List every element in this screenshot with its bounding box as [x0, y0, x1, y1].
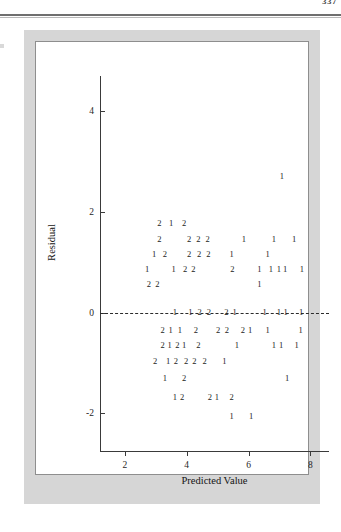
data-point-count: 1: [266, 249, 270, 258]
data-point-count: 1: [169, 219, 173, 228]
data-point-count: 1: [269, 265, 273, 274]
data-point-count: 1: [292, 234, 296, 243]
data-point-count: 1: [277, 265, 281, 274]
data-point-count: 1: [172, 265, 176, 274]
data-point-count: 1: [279, 341, 283, 350]
data-point-count: 2: [160, 341, 164, 350]
x-tick: [249, 451, 250, 456]
data-point-count: 1: [145, 265, 149, 274]
data-point-count: 2: [206, 249, 210, 258]
data-point-count: 1: [280, 171, 284, 180]
data-point-count: 1: [229, 249, 233, 258]
data-point-count: 2: [175, 341, 179, 350]
data-point-count: 2: [208, 393, 212, 402]
data-point-count: 1: [300, 265, 304, 274]
data-point-count: 2: [155, 280, 159, 289]
data-point-count: 1: [215, 393, 219, 402]
data-point-count: 2: [197, 249, 201, 258]
data-point-count: 1: [272, 341, 276, 350]
y-tick-label: 4: [68, 107, 94, 116]
data-point-count: 2: [182, 374, 186, 383]
data-point-count: 2: [157, 219, 161, 228]
data-point-count: 2: [224, 307, 228, 316]
data-point-count: 2: [207, 307, 211, 316]
data-point-count: 2: [180, 393, 184, 402]
data-point-count: 2: [187, 234, 191, 243]
data-point-count: 1: [257, 265, 261, 274]
data-point-count: 2: [196, 341, 200, 350]
figure-frame: 420-2 2468 12122222111122221111222111112…: [24, 30, 320, 504]
data-point-count: 1: [242, 234, 246, 243]
data-point-count: 2: [198, 307, 202, 316]
x-tick: [125, 451, 126, 456]
data-point-count: 1: [248, 325, 252, 334]
data-point-count: 1: [229, 412, 233, 421]
data-point-count: 1: [232, 307, 236, 316]
data-point-count: 2: [182, 219, 186, 228]
x-axis-line: [100, 451, 329, 452]
data-point-count: 2: [196, 234, 200, 243]
page-header: 337: [0, 0, 341, 22]
data-point-count: 1: [178, 325, 182, 334]
data-point-count: 1: [257, 280, 261, 289]
data-point-count: 1: [299, 307, 303, 316]
y-axis-line: [100, 76, 101, 451]
data-point-count: 2: [183, 265, 187, 274]
data-point-count: 1: [168, 341, 172, 350]
data-point-count: 2: [192, 357, 196, 366]
data-point-count: 1: [285, 374, 289, 383]
x-tick-label: 2: [112, 460, 138, 470]
y-tick-label: 0: [68, 309, 94, 318]
header-rule-thick: [0, 14, 341, 16]
y-tick: [100, 413, 105, 414]
data-point-count: 1: [284, 307, 288, 316]
data-point-count: 2: [174, 357, 178, 366]
data-point-count: 1: [182, 341, 186, 350]
data-point-count: 2: [163, 249, 167, 258]
y-tick-label: 2: [68, 208, 94, 217]
data-point-count: 2: [147, 280, 151, 289]
header-rule-thin: [0, 17, 341, 18]
data-point-count: 1: [163, 374, 167, 383]
data-point-count: 2: [191, 265, 195, 274]
data-point-count: 2: [230, 265, 234, 274]
data-point-count: 1: [235, 341, 239, 350]
plot-panel: 420-2 2468 12122222111122221111222111112…: [35, 41, 309, 475]
data-point-count: 1: [263, 307, 267, 316]
y-tick: [100, 212, 105, 213]
data-point-count: 2: [160, 325, 164, 334]
data-point-count: 1: [222, 357, 226, 366]
y-axis-label: Residual: [46, 198, 57, 288]
x-tick-label: 4: [174, 460, 200, 470]
data-point-count: 1: [283, 265, 287, 274]
data-point-count: 1: [298, 325, 302, 334]
margin-mark: [0, 44, 4, 48]
data-point-count: 1: [152, 249, 156, 258]
data-point-count: 2: [153, 357, 157, 366]
x-tick: [187, 451, 188, 456]
x-tick-label: 6: [236, 460, 262, 470]
data-point-count: 2: [216, 325, 220, 334]
data-point-count: 2: [225, 325, 229, 334]
figure-screenshot: 337 420-2 2468 1212222211112222111122211…: [0, 0, 341, 532]
data-point-count: 1: [266, 325, 270, 334]
y-tick-label: -2: [68, 409, 94, 418]
page-number: 337: [322, 0, 337, 6]
data-point-count: 2: [184, 357, 188, 366]
data-point-count: 1: [294, 341, 298, 350]
data-point-count: 1: [277, 307, 281, 316]
data-point-count: 1: [173, 393, 177, 402]
data-point-count: 2: [206, 234, 210, 243]
data-point-count: 2: [241, 325, 245, 334]
data-point-count: 2: [157, 234, 161, 243]
data-point-count: 1: [173, 307, 177, 316]
data-point-count: 2: [187, 249, 191, 258]
zero-reference-line: [100, 313, 329, 314]
x-tick: [310, 451, 311, 456]
data-point-count: 1: [272, 234, 276, 243]
data-point-count: 1: [249, 412, 253, 421]
data-point-count: 2: [229, 393, 233, 402]
y-tick: [100, 111, 105, 112]
x-tick-label: 8: [297, 460, 323, 470]
data-point-count: 1: [166, 357, 170, 366]
